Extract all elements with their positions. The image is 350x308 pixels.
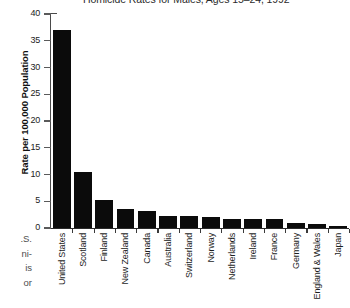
x-axis-label-slot: Switzerland [179,233,200,308]
y-axis-tick [44,13,51,14]
bar [287,223,305,228]
bar [308,224,326,228]
x-axis-label-slot: Scotland [72,233,93,308]
bar-series [51,14,349,228]
bar [95,200,113,228]
x-axis-label-slot: England & Wales [306,233,327,308]
y-axis-tick-label: 5 [16,195,40,205]
bar [244,219,262,228]
y-axis-tick-label: 30 [16,62,40,72]
x-axis-label: Germany [291,233,301,269]
x-axis-labels: United StatesScotlandFinlandNew ZealandC… [51,233,349,308]
x-axis-label-slot: New Zealand [115,233,136,308]
x-axis-label: Ireland [248,233,258,259]
caption-fragment-line: is [0,261,32,276]
x-axis-label-slot: United States [51,233,72,308]
x-axis-label: Finland [99,233,109,261]
x-axis-label: Australia [163,233,173,267]
caption-fragment-line: .S. [0,232,32,247]
bar [138,211,156,228]
x-axis-label-slot: Germany [285,233,306,308]
x-axis-label-slot: Finland [94,233,115,308]
y-axis-tick [44,120,51,121]
bar [159,216,177,228]
x-axis-label-slot: Netherlands [221,233,242,308]
x-axis-label: Canada [142,233,152,264]
y-axis-tick [44,201,51,202]
bar [117,209,135,228]
x-axis-label: Japan [333,233,343,257]
y-axis-tick-label: 10 [16,169,40,179]
x-axis-label: Netherlands [227,233,237,280]
x-axis-label-slot: Australia [157,233,178,308]
x-axis-label: Switzerland [184,233,194,278]
bar [53,30,71,228]
y-axis-tick-label: 20 [16,115,40,125]
bar [180,216,198,228]
x-axis-label-slot: Norway [200,233,221,308]
bar [223,219,241,228]
x-axis-label: Norway [206,233,216,263]
x-axis-label: United States [57,233,67,285]
y-axis-tick-label: 15 [16,142,40,152]
x-axis-label: England & Wales [312,233,322,299]
clipped-caption-fragments: .S.ni-isor [0,232,34,308]
y-axis-tick [44,40,51,41]
caption-fragment-line: or [0,276,32,291]
y-axis-tick-label: 40 [16,8,40,18]
y-axis-tick [44,67,51,68]
y-axis-tick [44,147,51,148]
bar [329,226,347,228]
y-axis-tick [44,94,51,95]
chart-title: Homicide Rates for Males, Ages 15–24, 19… [83,0,349,6]
x-axis-label-slot: Japan [328,233,349,308]
y-axis-tick-label: 0 [16,222,40,232]
x-axis-label: Scotland [78,233,88,267]
x-axis-label-slot: France [264,233,285,308]
y-axis-tick [44,227,51,228]
bar [266,219,284,228]
bar [202,217,220,228]
x-axis-label-slot: Canada [136,233,157,308]
y-axis-tick [44,174,51,175]
caption-fragment-line: ni- [0,247,32,262]
bar [74,172,92,228]
x-axis-label: France [269,233,279,260]
x-axis-label-slot: Ireland [243,233,264,308]
y-axis-tick-label: 25 [16,88,40,98]
x-axis-label: New Zealand [120,233,130,284]
y-axis-tick-label: 35 [16,35,40,45]
